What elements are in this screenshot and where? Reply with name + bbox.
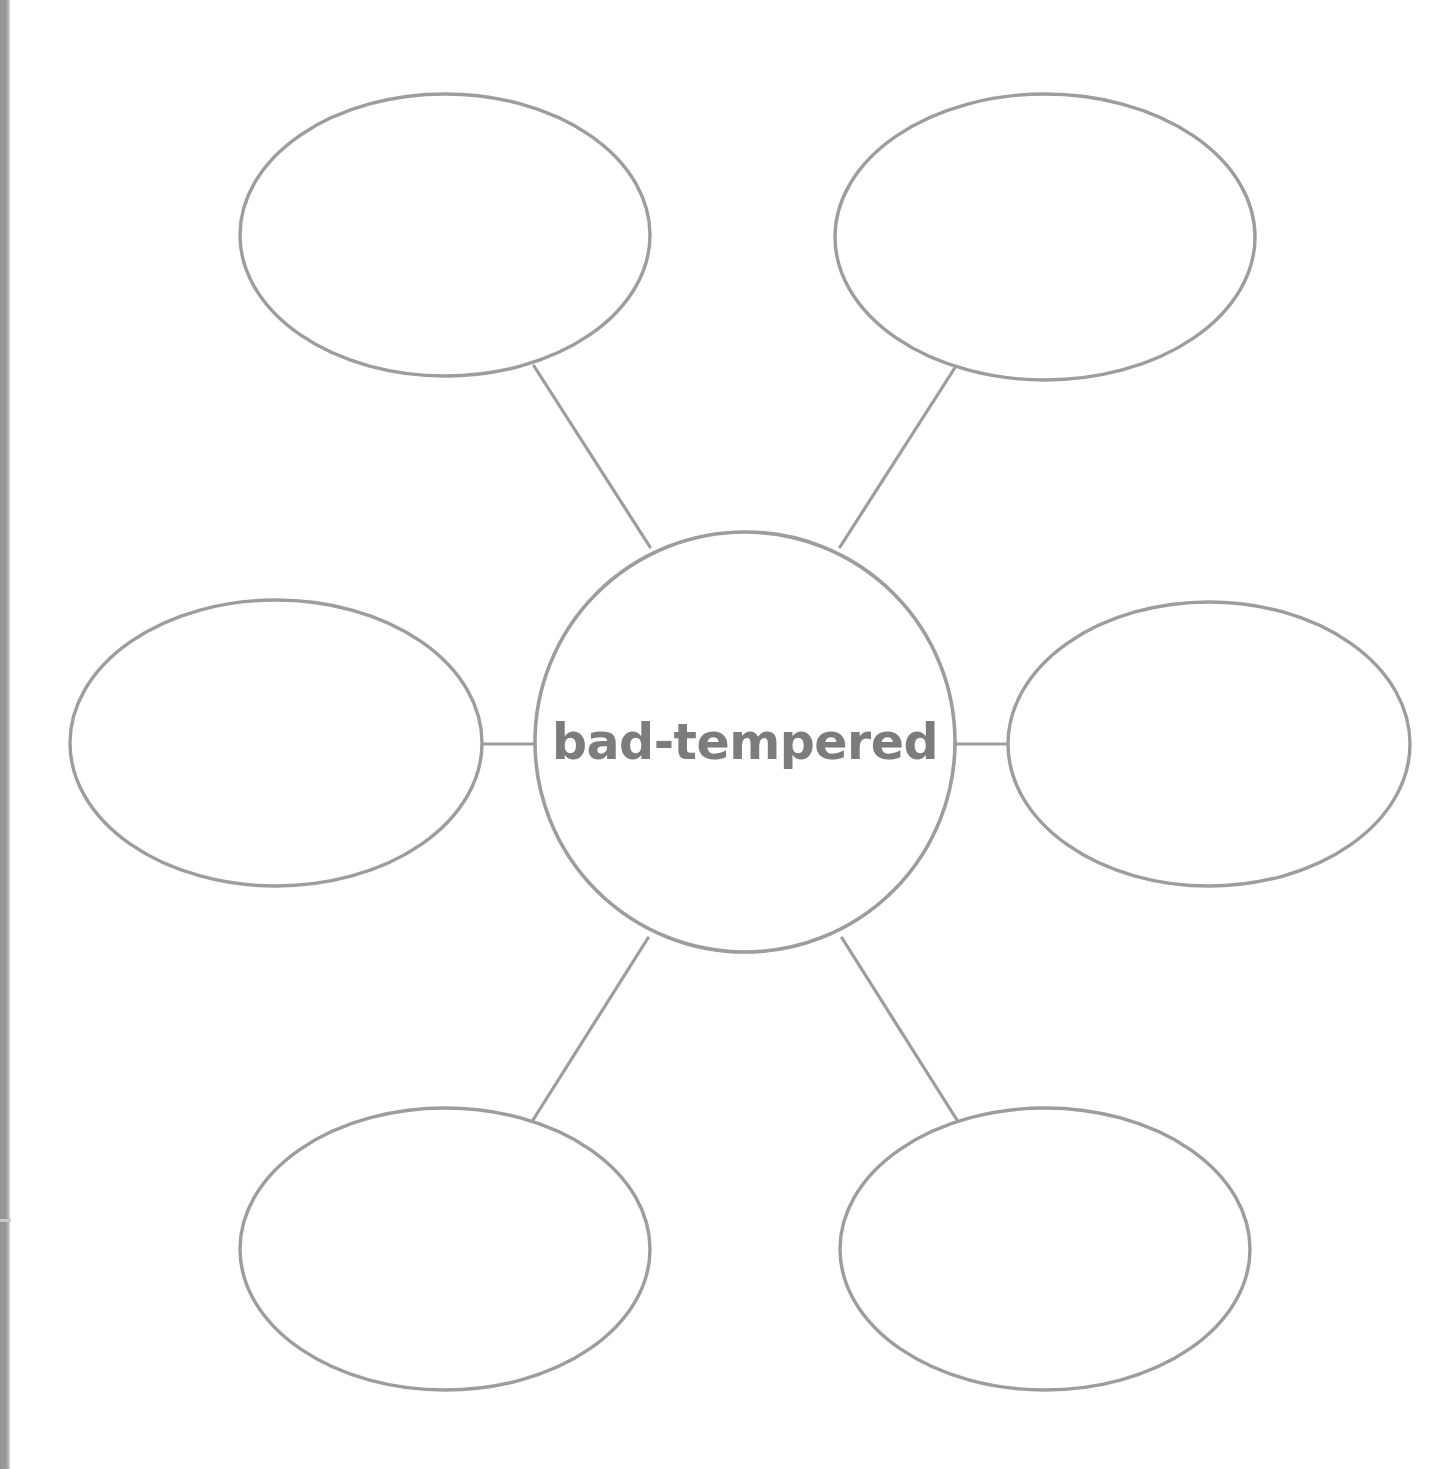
connector-top-right (840, 366, 956, 547)
branch-bubble-bottom-left[interactable] (240, 1108, 650, 1390)
center-bubble[interactable] (535, 532, 955, 952)
connector-top-left (534, 366, 650, 547)
branch-bubble-top-right[interactable] (835, 94, 1255, 380)
worksheet-page: bad-tempered (0, 0, 1448, 1469)
word-web-diagram (0, 0, 1448, 1469)
branch-bubble-middle-right[interactable] (1008, 602, 1410, 886)
connector-bottom-right (842, 938, 957, 1120)
branch-bubble-top-left[interactable] (240, 94, 650, 376)
branch-bubble-middle-left[interactable] (70, 600, 482, 886)
branch-bubble-bottom-right[interactable] (840, 1108, 1250, 1390)
connector-bottom-left (533, 938, 648, 1120)
